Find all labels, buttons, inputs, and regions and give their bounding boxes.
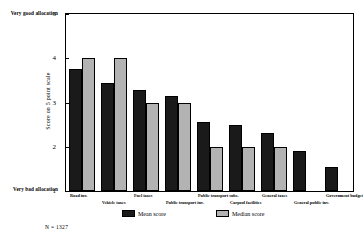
legend-swatch-mean-icon (122, 210, 135, 217)
legend-item-mean: Mean score (122, 210, 166, 217)
x-axis-label: Fuel taxes (134, 194, 153, 198)
bar-median (178, 103, 191, 192)
y-tick-label: 2 (36, 143, 56, 150)
bar-group (261, 14, 293, 191)
y-tick-label: 1 (36, 188, 56, 195)
chart-legend: Mean score Median score (0, 210, 361, 222)
legend-label-mean: Mean score (138, 211, 166, 217)
x-axis-label: Public transport subs. (198, 194, 238, 198)
bar-group (101, 14, 133, 191)
legend-swatch-median-icon (216, 210, 229, 217)
bar-group (229, 14, 261, 191)
bar-group (197, 14, 229, 191)
bar-group (165, 14, 197, 191)
y-tick-label: 4 (36, 55, 56, 62)
bar-mean (197, 122, 210, 191)
bar-mean (69, 69, 82, 191)
plot-area (65, 14, 353, 191)
bar-group (69, 14, 101, 191)
bar-median (82, 58, 95, 191)
bar-median (210, 147, 223, 191)
x-axis-label: Vehicle taxes (102, 201, 126, 205)
x-axis-label: General taxes (262, 194, 287, 198)
x-axis-label: Public transport inv. (166, 201, 204, 205)
bar-mean (325, 167, 338, 191)
bar-median (242, 147, 255, 191)
bar-mean (101, 83, 114, 191)
sample-size-note: N = 1327 (45, 224, 68, 230)
bar-group (325, 14, 357, 191)
bar-median (114, 58, 127, 191)
bar-mean (293, 151, 306, 191)
y-tick-label: 3 (36, 99, 56, 106)
bar-mean (165, 96, 178, 191)
y-tick-label: 5 (36, 11, 56, 18)
legend-label-median: Median score (232, 211, 265, 217)
bar-median (274, 147, 287, 191)
bar-group (293, 14, 325, 191)
x-axis-label: Carpool facilities (230, 201, 261, 205)
bar-mean (229, 125, 242, 191)
x-axis-label: Government budget (326, 194, 363, 198)
x-axis-line (65, 191, 354, 192)
y-tick-mark (65, 191, 69, 192)
bar-group (133, 14, 165, 191)
bar-mean (261, 133, 274, 191)
x-axis-label: General public inv. (294, 201, 329, 205)
x-axis-label: Road inv. (70, 194, 87, 198)
bar-median (146, 103, 159, 192)
legend-item-median: Median score (216, 210, 265, 217)
bar-mean (133, 90, 146, 191)
